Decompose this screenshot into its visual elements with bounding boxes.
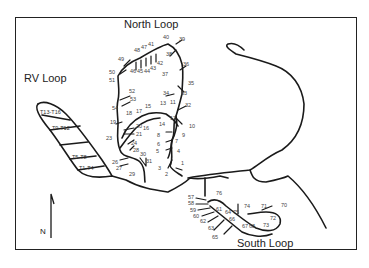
campsite-number: 62 <box>200 219 206 225</box>
campsite-number: 18 <box>126 111 132 117</box>
campsite-number: 16 <box>143 126 149 132</box>
campsite-number: 58 <box>188 201 194 207</box>
campsite-number: 73 <box>263 223 269 229</box>
campsite-number: 51 <box>109 78 115 84</box>
campsite-number: 70 <box>281 203 287 209</box>
campsite-number: 67 <box>242 224 248 230</box>
campsite-number: 74 <box>244 204 250 210</box>
campsite-number: 4 <box>177 149 180 155</box>
region-label-south-loop: South Loop <box>237 238 293 249</box>
campsite-number: 36 <box>183 62 189 68</box>
campsite-number: 76 <box>216 191 222 197</box>
campsite-number: 54 <box>112 106 118 112</box>
main-road <box>188 43 304 178</box>
campsite-number: 47 <box>141 45 147 51</box>
campsite-number: 49 <box>118 57 124 63</box>
campsite-number: 28 <box>133 148 139 154</box>
campsite-number: 65 <box>212 235 218 241</box>
north-arrow <box>51 194 54 238</box>
campsite-number: 72 <box>270 216 276 222</box>
campsite-number: 32 <box>185 103 191 109</box>
campsite-number: 19 <box>110 120 116 126</box>
campsite-number: 40 <box>163 35 169 41</box>
campsite-number: 34 <box>163 91 169 97</box>
tent-area-label: T9-T12 <box>52 126 70 132</box>
north-arrow-label: N <box>40 228 46 236</box>
campsite-number: 68 <box>249 224 255 230</box>
campsite-number: 48 <box>134 48 140 54</box>
campsite-number: 50 <box>109 70 115 76</box>
campsite-number: 60 <box>193 214 199 220</box>
campsite-number: 71 <box>261 204 267 210</box>
campsite-number: 12 <box>170 116 176 122</box>
region-label-north-loop: North Loop <box>124 19 178 30</box>
campsite-number: 6 <box>157 142 160 148</box>
campsite-number: 46 <box>130 69 136 75</box>
campsite-number: 15 <box>145 104 151 110</box>
campsite-number: 5 <box>156 149 159 155</box>
campsite-number: 9 <box>182 133 185 139</box>
campsite-number: 63 <box>208 226 214 232</box>
tent-area-label: T5-T8 <box>72 155 87 161</box>
campsite-number: 37 <box>162 72 168 78</box>
campsite-number: 75 <box>233 210 239 216</box>
region-label-rv-loop: RV Loop <box>24 73 67 84</box>
campsite-number: 35 <box>188 81 194 87</box>
campsite-number: 41 <box>148 42 154 48</box>
campsite-number: 53 <box>130 97 136 103</box>
campsite-number: 23 <box>106 136 112 142</box>
campsite-number: 21 <box>136 132 142 138</box>
campsite-number: 2 <box>165 172 168 178</box>
campsite-number: 7 <box>175 139 178 145</box>
campsite-number: 10 <box>189 124 195 130</box>
campsite-number: 38 <box>166 52 172 58</box>
tent-area-label: T1-T4 <box>79 166 94 172</box>
campsite-number: 11 <box>170 100 176 106</box>
campsite-number: 52 <box>129 89 135 95</box>
campsite-number: 24 <box>131 141 137 147</box>
campsite-number: 3 <box>158 166 161 172</box>
campsite-number: 27 <box>116 166 122 172</box>
campsite-number: 30 <box>140 152 146 158</box>
campsite-number: 31 <box>146 159 152 165</box>
campsite-number: 44 <box>144 69 150 75</box>
campsite-number: 33 <box>181 91 187 97</box>
campsite-number: 39 <box>179 37 185 43</box>
campsite-number: 20 <box>136 124 142 130</box>
campsite-number: 8 <box>157 133 160 139</box>
campsite-number: 42 <box>157 61 163 67</box>
campsite-number: 14 <box>159 122 165 128</box>
campsite-number: 61 <box>216 207 222 213</box>
campsite-number: 64 <box>225 210 231 216</box>
campsite-number: 45 <box>137 69 143 75</box>
campsite-number: 13 <box>160 101 166 107</box>
campsite-number: 1 <box>181 161 184 167</box>
campsite-number: 29 <box>129 172 135 178</box>
tent-area-label: T13-T16 <box>40 110 61 116</box>
campsite-number: 17 <box>136 109 142 115</box>
campsite-number: 66 <box>229 217 235 223</box>
campsite-number: 43 <box>150 66 156 72</box>
